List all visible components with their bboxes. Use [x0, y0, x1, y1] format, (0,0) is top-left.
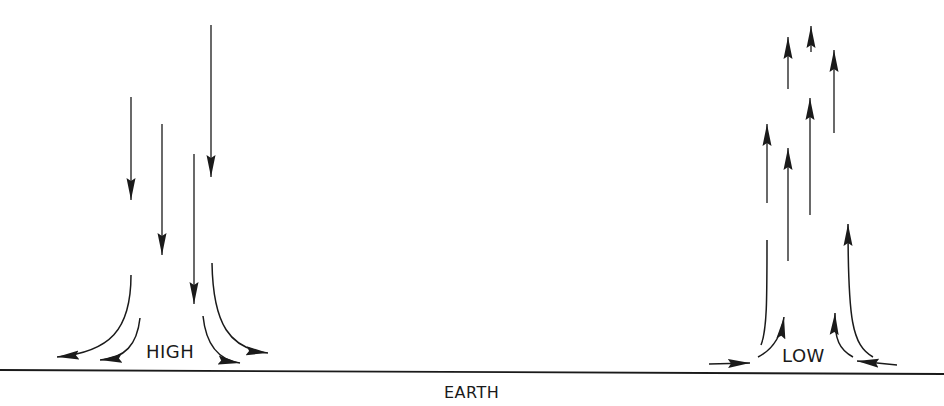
curved-arrow-right-icon [212, 263, 268, 353]
low-pressure-label: LOW [782, 347, 825, 365]
high-pressure-label: HIGH [146, 343, 194, 361]
curved-arrow-up-icon [758, 317, 784, 357]
low-rising-arrows [767, 26, 834, 261]
inflow-arrow-right-icon [709, 363, 750, 364]
earth-label: EARTH [444, 385, 499, 401]
inflow-arrow-left-icon [857, 361, 897, 365]
curved-arrow-left-icon [100, 318, 140, 360]
curved-arrow-up-icon [848, 224, 873, 357]
curved-arrow-up-icon [835, 313, 853, 357]
curved-arrow-left-icon [57, 275, 131, 357]
rising-curve [761, 240, 767, 345]
ground-line [0, 370, 944, 374]
low-surface-inflow [709, 224, 897, 365]
high-descending-arrows [131, 25, 211, 304]
